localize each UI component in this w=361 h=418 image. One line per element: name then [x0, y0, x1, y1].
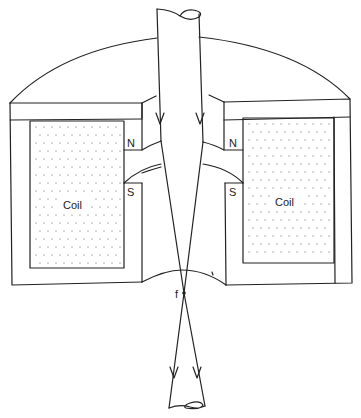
label-north-right: N	[229, 137, 237, 149]
left-coil-windings	[35, 126, 120, 263]
lower-pole-pieces	[124, 164, 243, 183]
electron-rays	[156, 113, 205, 408]
focal-point	[182, 291, 186, 295]
outgoing-beam-tube	[169, 402, 205, 409]
magnetic-lens-diagram: N S N S Coil Coil f	[0, 0, 361, 418]
small-tick	[212, 272, 213, 275]
label-north-left: N	[127, 137, 135, 149]
label-south-left: S	[127, 186, 134, 198]
left-coil	[30, 121, 124, 268]
right-coil	[243, 118, 334, 263]
right-coil-windings	[248, 123, 329, 252]
bottom-bore	[142, 270, 226, 285]
label-south-right: S	[229, 186, 236, 198]
label-focal-point: f	[175, 288, 179, 300]
label-coil-left: Coil	[63, 199, 82, 211]
incoming-beam-tube	[157, 9, 203, 142]
housing-dome	[10, 37, 350, 103]
label-coil-right: Coil	[275, 196, 294, 208]
